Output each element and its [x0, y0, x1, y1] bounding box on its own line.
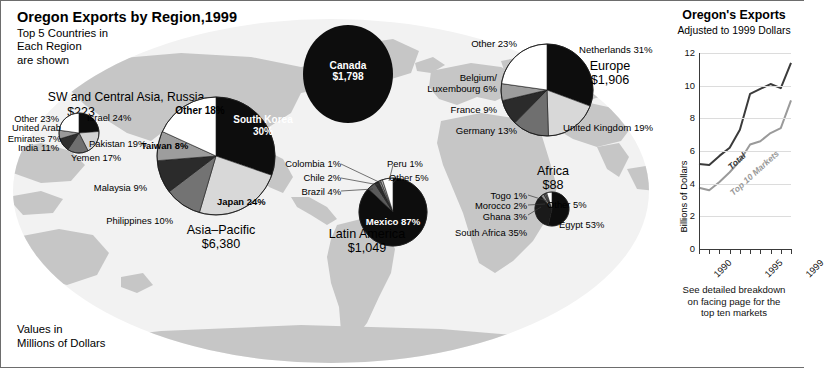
x-tick-mark: [771, 250, 772, 254]
grid-line: [699, 53, 791, 54]
x-tick-mark: [791, 250, 792, 254]
world-map-panel: Oregon Exports by Region,1999 Top 5 Coun…: [1, 1, 657, 367]
grid-line: [699, 86, 791, 87]
x-tick-label: 1995: [762, 257, 785, 280]
x-tick-mark: [719, 250, 720, 254]
line-chart-plot[interactable]: Billions of Dollars 024681012 1990199519…: [657, 41, 804, 281]
x-tick-mark: [740, 250, 741, 254]
x-axis-line: [699, 249, 792, 250]
page-subtitle: Top 5 Countries in Each Region are shown: [17, 27, 108, 67]
y-tick-label: 0: [677, 243, 695, 254]
x-tick-mark: [760, 250, 761, 254]
grid-line: [699, 118, 791, 119]
page-title: Oregon Exports by Region,1999: [17, 9, 237, 25]
y-tick-label: 2: [677, 210, 695, 221]
line-chart-title: Oregon's Exports: [664, 9, 804, 23]
x-tick-mark: [709, 250, 710, 254]
x-tick-mark: [730, 250, 731, 254]
y-tick-label: 8: [677, 112, 695, 123]
y-tick-label: 12: [677, 47, 695, 58]
x-tick-mark: [699, 250, 700, 254]
y-tick-label: 10: [677, 80, 695, 91]
line-chart-subtitle: Adjusted to 1999 Dollars: [664, 25, 804, 37]
y-tick-label: 4: [677, 178, 695, 189]
line-chart-caption: See detailed breakdown on facing page fo…: [664, 284, 804, 319]
y-tick-label: 6: [677, 145, 695, 156]
x-tick-label: 1999: [803, 257, 826, 280]
values-units-note: Values in Millions of Dollars: [17, 323, 106, 350]
line-chart-panel: Oregon's Exports Adjusted to 1999 Dollar…: [657, 1, 804, 367]
x-tick-label: 1990: [711, 257, 734, 280]
y-axis-line: [699, 53, 700, 250]
series-line: [699, 63, 791, 165]
grid-line: [699, 216, 791, 217]
y-axis-label: Billions of Dollars: [678, 152, 689, 242]
x-tick-mark: [750, 250, 751, 254]
x-tick-mark: [781, 250, 782, 254]
